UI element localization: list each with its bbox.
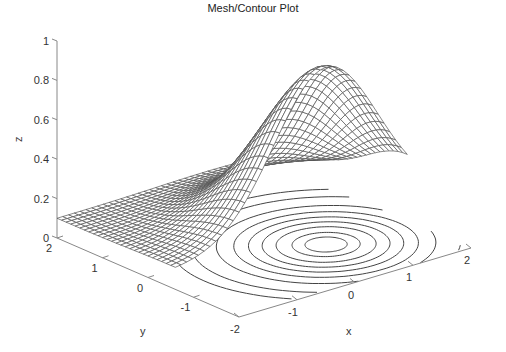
x-tick-label: 1 xyxy=(406,271,412,283)
y-tick-label: -1 xyxy=(181,301,191,313)
x-tick-label: 0 xyxy=(348,289,354,301)
z-tick-label: 0.4 xyxy=(34,153,49,165)
y-axis-label: y xyxy=(140,325,146,337)
x-tick-label: -1 xyxy=(288,306,298,318)
z-tick-label: 0.2 xyxy=(34,193,49,205)
z-tick-label: 0.8 xyxy=(34,74,49,86)
mesh-contour-plot: -2-1012210-100.20.40.60.81 x y z xyxy=(0,0,506,352)
z-tick-label: 1 xyxy=(43,35,49,47)
z-tick-label: 0 xyxy=(43,232,49,244)
z-axis-label: z xyxy=(12,137,24,143)
y-tick-label: 0 xyxy=(137,282,143,294)
x-tick-label: 2 xyxy=(464,254,470,266)
y-tick-label: 1 xyxy=(91,262,97,274)
x-tick-label: -2 xyxy=(230,323,240,335)
z-tick-label: 0.6 xyxy=(34,114,49,126)
x-axis-label: x xyxy=(346,325,352,337)
